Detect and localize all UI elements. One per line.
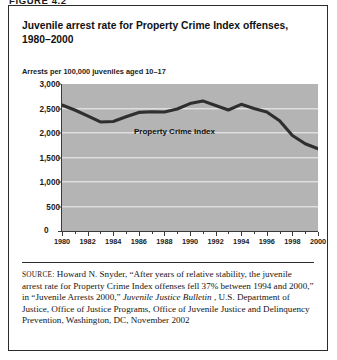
x-axis-minor-tick-mark [228, 232, 229, 234]
y-axis-labels: 3,0002,5002,0001,5001,000500 [22, 84, 60, 231]
x-axis-labels: 1980198219841986198819901992199419961998… [62, 237, 318, 249]
series-annotation-label: Property Crime Index [134, 127, 215, 136]
x-axis-tick-mark [241, 232, 242, 236]
x-axis-tick-mark [62, 232, 63, 236]
x-axis-tick-mark [267, 232, 268, 236]
x-axis-tick-mark [318, 232, 319, 236]
x-axis-tick-label: 1996 [259, 237, 275, 246]
y-axis-tick-label: 2,000 [26, 129, 60, 138]
x-axis-minor-tick-mark [126, 232, 127, 234]
x-axis-tick-mark [88, 232, 89, 236]
line-chart: 3,0002,5002,0001,5001,000500 Property Cr… [22, 84, 318, 256]
x-axis-minor-tick-mark [280, 232, 281, 234]
x-axis-tick-label: 1984 [105, 237, 121, 246]
x-axis-tick-mark [190, 232, 191, 236]
x-axis-tick-mark [113, 232, 114, 236]
x-axis-tick-label: 1988 [156, 237, 172, 246]
title-line-1: Juvenile arrest rate for Property Crime … [22, 20, 288, 31]
y-axis-tick-label: 500 [26, 202, 60, 211]
figure-panel: Juvenile arrest rate for Property Crime … [8, 5, 328, 351]
y-axis-tick-label: 1,000 [26, 178, 60, 187]
y-axis-tick-label: 3,000 [26, 80, 60, 89]
x-axis-tick-mark [216, 232, 217, 236]
x-axis-minor-tick-mark [305, 232, 306, 234]
source-keyword: SOURCE: [22, 270, 55, 279]
x-axis-minor-tick-mark [75, 232, 76, 234]
x-axis-tick-mark [139, 232, 140, 236]
x-axis-tick-mark [292, 232, 293, 236]
x-axis-tick-label: 1986 [131, 237, 147, 246]
x-axis-tick-label: 1992 [207, 237, 223, 246]
x-axis-tick-label: 1980 [54, 237, 70, 246]
y-axis-caption: Arrests per 100,000 juveniles aged 10–17 [22, 67, 166, 76]
figure-page: FIGURE 4.2 Juvenile arrest rate for Prop… [0, 0, 337, 360]
x-axis-tick-label: 1994 [233, 237, 249, 246]
y-axis-zero-label: 0 [44, 226, 49, 235]
y-axis-tick-label: 1,500 [26, 153, 60, 162]
x-axis-minor-tick-mark [152, 232, 153, 234]
x-axis-minor-tick-mark [100, 232, 101, 234]
x-axis-minor-tick-mark [254, 232, 255, 234]
x-axis-tick-label: 2000 [310, 237, 326, 246]
source-divider [22, 262, 314, 263]
x-axis-tick-label: 1982 [79, 237, 95, 246]
x-axis-tick-label: 1990 [182, 237, 198, 246]
plot-area: Property Crime Index [62, 84, 318, 231]
x-axis-tick-mark [164, 232, 165, 236]
source-publication-title: Juvenile Justice Bulletin [123, 292, 212, 302]
x-axis-minor-tick-mark [177, 232, 178, 234]
source-note: SOURCE: Howard N. Snyder, “After years o… [22, 269, 314, 327]
series-line-property-crime-index [62, 84, 318, 231]
y-axis-tick-label: 2,500 [26, 104, 60, 113]
page-title: Juvenile arrest rate for Property Crime … [22, 19, 314, 47]
x-axis-tick-label: 1998 [284, 237, 300, 246]
x-axis-minor-tick-mark [203, 232, 204, 234]
title-line-2: 1980–2000 [22, 33, 314, 47]
